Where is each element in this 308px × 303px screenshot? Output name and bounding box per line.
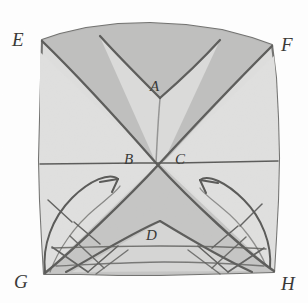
point-label-B: B <box>124 152 133 167</box>
point-label-D: D <box>146 228 157 243</box>
vertex-label-E: E <box>12 30 24 49</box>
vertex-label-G: G <box>14 272 28 291</box>
point-label-A: A <box>150 79 159 94</box>
figure-canvas: E F G H A B C D <box>0 0 308 303</box>
vertex-label-F: F <box>281 35 293 54</box>
geometric-diagram <box>0 0 308 303</box>
point-label-C: C <box>175 152 185 167</box>
vertex-label-H: H <box>281 274 295 293</box>
